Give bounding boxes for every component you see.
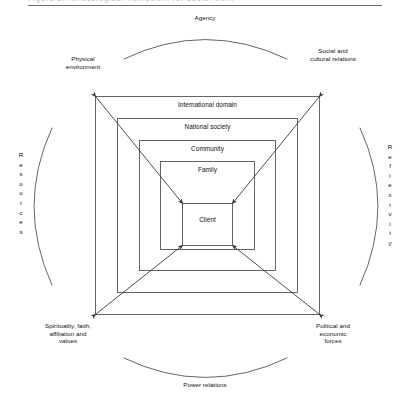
arc-label-reflexivity: R e f l e x i v i t y <box>383 142 397 248</box>
vletter-i: i <box>383 200 397 210</box>
vletter-v: v <box>383 209 397 219</box>
layer-label-international-domain: International domain <box>160 101 255 109</box>
vletter-R: R <box>383 142 397 152</box>
vletter-e: e <box>14 160 28 170</box>
layer-rect-community <box>140 141 276 271</box>
left-arc-path <box>34 128 52 285</box>
figure-canvas: Figure 1. An ecological framework for so… <box>0 0 410 413</box>
vletter-l: l <box>383 171 397 181</box>
arc-label-agency: Agency <box>160 14 250 22</box>
vletter-f: f <box>383 161 397 171</box>
layer-label-client: Client <box>183 216 232 224</box>
vletter-x: x <box>383 190 397 200</box>
vletter-i2: i <box>383 219 397 229</box>
arc-label-resources: R e s o u r c e s <box>14 150 28 236</box>
vletter-u: u <box>14 188 28 198</box>
vletter-e4: e <box>383 180 397 190</box>
right-arc-path <box>360 128 378 285</box>
vletter-t: t <box>383 228 397 238</box>
corner-label-spirituality-faith: Spirituality, faith, affiliation and val… <box>25 322 111 345</box>
layer-rect-family <box>161 162 255 250</box>
vletter-o: o <box>14 179 28 189</box>
vletter-e3: e <box>383 152 397 162</box>
corner-label-social-cultural-relations: Social and cultural relations <box>290 47 376 62</box>
vletter-e2: e <box>14 217 28 227</box>
layer-label-national-society: National society <box>160 123 255 131</box>
layer-label-family: Family <box>160 166 255 174</box>
top-arc-path <box>124 40 287 60</box>
vletter-r2: r <box>14 198 28 208</box>
corner-label-physical-environment: Physical environment <box>40 55 126 70</box>
vletter-s: s <box>14 169 28 179</box>
vletter-y: y <box>383 238 397 248</box>
vletter-c: c <box>14 208 28 218</box>
bottom-arc-path <box>124 358 287 378</box>
layer-label-community: Community <box>160 145 255 153</box>
arc-label-power-relations: Power relations <box>160 381 250 389</box>
vletter-s2: s <box>14 227 28 237</box>
layer-rect-client <box>183 204 233 246</box>
vletter-r: R <box>14 150 28 160</box>
corner-label-political-economic-forces: Political and economic forces <box>290 322 376 345</box>
